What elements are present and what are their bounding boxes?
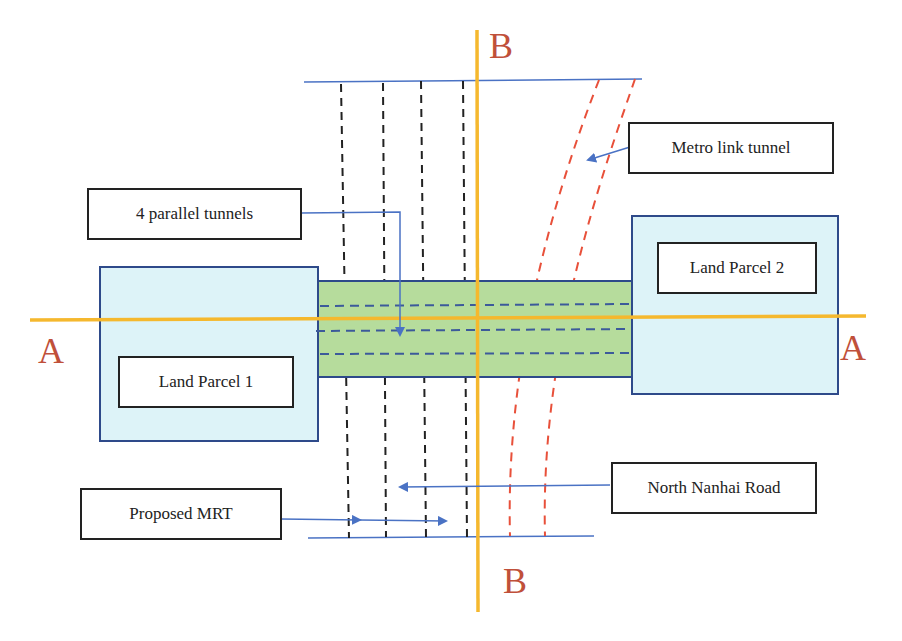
diagram-canvas [0,0,902,641]
proposed-mrt-label: Proposed MRT [80,488,282,540]
section-marker-a-left: A [38,330,64,372]
tunnel-block [318,281,632,377]
north-nanhai-arrow [400,485,610,487]
land-parcel-1-area [100,267,318,441]
section-marker-b-bottom: B [503,560,527,602]
section-marker-b-top: B [489,25,513,67]
land-parcel-1-label: Land Parcel 1 [118,356,294,408]
section-marker-a-right: A [840,327,866,369]
road-bottom-boundary [308,536,594,538]
metro-link-tunnel-label: Metro link tunnel [628,122,834,174]
parallel-tunnels-label: 4 parallel tunnels [87,188,302,240]
proposed-mrt-arrow-1 [281,519,360,520]
land-parcel-2-label: Land Parcel 2 [657,242,817,294]
north-nanhai-road-label: North Nanhai Road [611,462,817,514]
proposed-mrt-arrow-2 [360,520,446,521]
road-top-boundary [304,79,642,82]
section-line-b [477,30,478,612]
